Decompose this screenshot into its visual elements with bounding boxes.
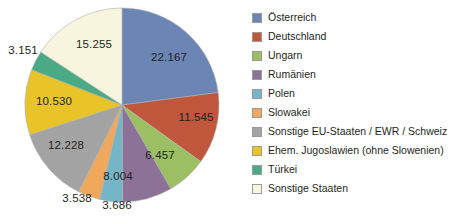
legend-swatch-deutschland xyxy=(252,32,262,42)
legend-item[interactable]: Sonstige EU-Staaten / EWR / Schweiz xyxy=(252,122,458,141)
legend-item[interactable]: Rumänien xyxy=(252,65,458,84)
legend-item-label: Ehem. Jugoslawien (ohne Slowenien) xyxy=(268,145,444,156)
pie-chart-figure: 22.16711.5456.4578.0043.6863.53812.22810… xyxy=(0,0,458,216)
legend-item[interactable]: Ungarn xyxy=(252,46,458,65)
pie-svg xyxy=(0,0,240,216)
legend-item[interactable]: Deutschland xyxy=(252,27,458,46)
pie-slice-value-label: 3.538 xyxy=(62,192,91,204)
pie-slice-value-label: 11.545 xyxy=(179,111,214,123)
legend-item[interactable]: Sonstige Staaten xyxy=(252,179,458,198)
legend-item-label: Österreich xyxy=(268,12,316,23)
legend-item[interactable]: Polen xyxy=(252,84,458,103)
legend-item-label: Türkei xyxy=(268,164,297,175)
legend-item-label: Sonstige Staaten xyxy=(268,183,348,194)
legend-item-label: Sonstige EU-Staaten / EWR / Schweiz xyxy=(268,126,447,137)
legend-swatch-ehem-jugoslawien xyxy=(252,146,262,156)
legend-swatch-tuerkei xyxy=(252,165,262,175)
pie-slice-value-label: 12.228 xyxy=(48,139,84,151)
pie-slice-value-label: 8.004 xyxy=(103,170,132,182)
legend-item-label: Slowakei xyxy=(268,107,310,118)
pie-slice-value-label: 3.151 xyxy=(8,44,37,56)
chart-legend: ÖsterreichDeutschlandUngarnRumänienPolen… xyxy=(252,8,458,198)
legend-swatch-ungarn xyxy=(252,51,262,61)
legend-item-label: Rumänien xyxy=(268,69,316,80)
legend-swatch-sonstige-staaten xyxy=(252,184,262,194)
legend-item-label: Deutschland xyxy=(268,31,326,42)
pie-plot-area: 22.16711.5456.4578.0043.6863.53812.22810… xyxy=(0,0,240,216)
legend-swatch-oesterreich xyxy=(252,13,262,23)
legend-item[interactable]: Ehem. Jugoslawien (ohne Slowenien) xyxy=(252,141,458,160)
pie-slice-value-label: 15.255 xyxy=(76,38,112,50)
pie-slice-value-label: 10.530 xyxy=(36,95,72,107)
legend-item[interactable]: Türkei xyxy=(252,160,458,179)
legend-swatch-polen xyxy=(252,89,262,99)
pie-slice-value-label: 3.686 xyxy=(102,199,131,211)
legend-item[interactable]: Slowakei xyxy=(252,103,458,122)
legend-swatch-slowakei xyxy=(252,108,262,118)
pie-slice-value-label: 6.457 xyxy=(145,149,174,161)
legend-swatch-sonstige-eu xyxy=(252,127,262,137)
legend-item-label: Ungarn xyxy=(268,50,302,61)
legend-swatch-rumaenien xyxy=(252,70,262,80)
legend-item-label: Polen xyxy=(268,88,295,99)
pie-slice-value-label: 22.167 xyxy=(151,51,187,63)
legend-item[interactable]: Österreich xyxy=(252,8,458,27)
